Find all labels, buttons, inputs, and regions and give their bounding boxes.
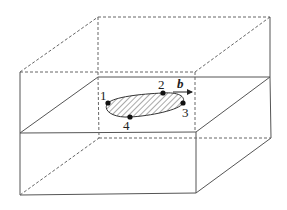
point-2-label: 2 xyxy=(158,77,165,92)
point-4-label: 4 xyxy=(123,118,130,133)
lower-front-bottom-edge xyxy=(20,193,196,195)
lower-back-right-edge xyxy=(270,77,271,138)
burgers-vector-label: b xyxy=(177,76,184,91)
upper-left-top-edge xyxy=(20,17,98,72)
slip-plane-front-edge xyxy=(20,132,196,133)
slip-plane-left-edge xyxy=(20,77,98,133)
lower-back-left-hidden-edge xyxy=(98,77,99,138)
slip-plane-right-edge xyxy=(196,77,270,132)
slipped-area xyxy=(106,93,183,117)
lower-right-bottom-edge xyxy=(196,138,271,193)
crystal-slip-diagram: 1 2 3 4 b xyxy=(0,0,287,210)
upper-right-top-edge xyxy=(195,17,270,72)
lower-left-bottom-hidden-edge xyxy=(20,138,99,195)
point-1-label: 1 xyxy=(100,88,107,103)
point-3-label: 3 xyxy=(182,105,189,120)
